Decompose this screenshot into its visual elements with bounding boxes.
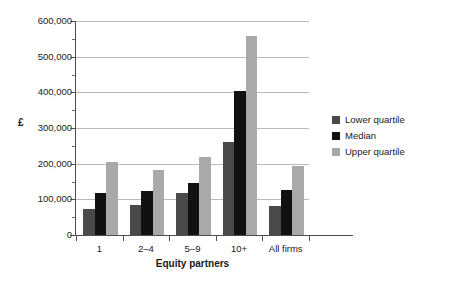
y-tick-mark: [70, 164, 75, 165]
bar: [223, 142, 235, 235]
y-minor-tick-mark: [72, 182, 75, 183]
bar: [292, 166, 304, 235]
bar: [141, 191, 153, 235]
y-tick-mark: [70, 235, 75, 236]
y-minor-tick-mark: [72, 39, 75, 40]
y-tick-mark: [70, 128, 75, 129]
y-tick-label: 500,000: [20, 52, 72, 62]
y-minor-tick-mark: [72, 217, 75, 218]
x-tick-label: All firms: [256, 243, 316, 254]
y-minor-tick-mark: [72, 146, 75, 147]
bars-layer: [76, 21, 309, 235]
legend-label: Lower quartile: [345, 114, 405, 125]
x-tick-mark: [262, 236, 263, 241]
y-tick-mark: [70, 21, 75, 22]
bar: [269, 206, 281, 235]
y-tick-label: 100,000: [20, 194, 72, 204]
legend-swatch-icon: [332, 132, 340, 140]
y-tick-label: 200,000: [20, 159, 72, 169]
legend-item: Upper quartile: [332, 144, 448, 159]
y-minor-tick-mark: [72, 75, 75, 76]
legend-item: Median: [332, 128, 448, 143]
y-tick-label: 600,000: [20, 16, 72, 26]
y-tick-mark: [70, 199, 75, 200]
y-tick-label: 400,000: [20, 87, 72, 97]
x-tick-mark: [76, 236, 77, 241]
y-tick-mark: [70, 92, 75, 93]
x-axis-line: [75, 235, 353, 236]
y-tick-mark: [70, 57, 75, 58]
y-axis-tick-labels: 0100,000200,000300,000400,000500,000600,…: [18, 0, 72, 283]
legend-label: Median: [345, 130, 376, 141]
bar: [130, 205, 142, 235]
x-tick-mark: [169, 236, 170, 241]
bar: [281, 190, 293, 235]
x-axis-title: Equity partners: [76, 258, 309, 269]
x-tick-mark: [309, 236, 310, 241]
x-tick-mark: [123, 236, 124, 241]
y-minor-tick-mark: [72, 110, 75, 111]
y-tick-label: 0: [20, 230, 72, 240]
bar: [246, 36, 258, 235]
bar: [188, 183, 200, 235]
y-tick-label: 300,000: [20, 123, 72, 133]
legend-label: Upper quartile: [345, 146, 405, 157]
bar: [95, 193, 107, 235]
x-tick-mark: [216, 236, 217, 241]
bar: [176, 193, 188, 235]
bar: [106, 162, 118, 235]
bar-chart-figure: £ 0100,000200,000300,000400,000500,00060…: [0, 0, 452, 283]
chart-legend: Lower quartileMedianUpper quartile: [332, 112, 448, 160]
legend-swatch-icon: [332, 116, 340, 124]
bar: [153, 170, 165, 235]
legend-item: Lower quartile: [332, 112, 448, 127]
bar: [83, 209, 95, 235]
bar: [234, 91, 246, 235]
bar: [199, 157, 211, 235]
legend-swatch-icon: [332, 148, 340, 156]
